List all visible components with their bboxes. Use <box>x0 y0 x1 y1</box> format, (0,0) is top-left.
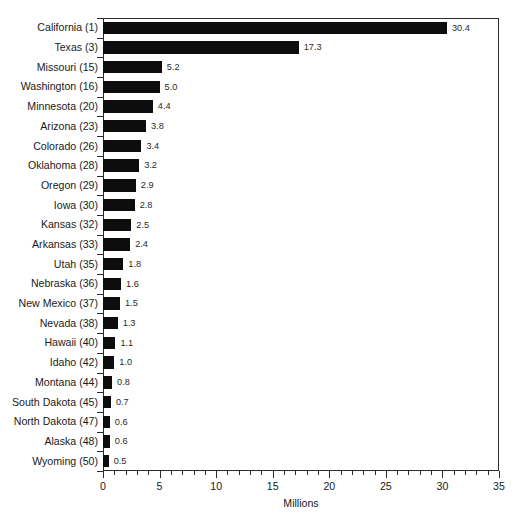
bar <box>103 317 118 329</box>
x-axis-minor-tick <box>318 471 319 475</box>
bar-row: 0.7 <box>103 392 499 412</box>
bar-row: 5.2 <box>103 57 499 77</box>
bar-row: 0.5 <box>103 451 499 471</box>
bar <box>103 258 123 270</box>
bar-value-label: 1.5 <box>125 295 138 311</box>
bar-row: 17.3 <box>103 38 499 58</box>
y-axis-label: California (1) <box>0 21 98 34</box>
y-axis-label: North Dakota (47) <box>0 415 98 428</box>
y-axis-label: Kansas (32) <box>0 218 98 231</box>
bar-value-label: 0.6 <box>115 433 128 449</box>
x-axis-minor-tick <box>454 471 455 475</box>
x-axis-minor-tick <box>227 471 228 475</box>
x-axis-minor-tick <box>363 471 364 475</box>
bar-value-label: 1.6 <box>126 276 139 292</box>
bar-row: 2.4 <box>103 235 499 255</box>
x-axis-tick-label: 15 <box>267 479 279 493</box>
x-axis-minor-tick <box>194 471 195 475</box>
bar-value-label: 1.3 <box>123 315 136 331</box>
x-axis-minor-tick <box>408 471 409 475</box>
bar-row: 2.8 <box>103 195 499 215</box>
bar <box>103 140 141 152</box>
bar-row: 5.0 <box>103 77 499 97</box>
bar-value-label: 0.8 <box>117 374 130 390</box>
y-axis-label: Montana (44) <box>0 376 98 389</box>
x-axis-tick-label: 35 <box>493 479 505 493</box>
bar-value-label: 2.9 <box>141 177 154 193</box>
x-axis-minor-tick <box>488 471 489 475</box>
y-axis-label: Hawaii (40) <box>0 336 98 349</box>
bar-row: 2.5 <box>103 215 499 235</box>
bar-row: 1.0 <box>103 353 499 373</box>
bar <box>103 81 160 93</box>
bar-row: 1.8 <box>103 254 499 274</box>
x-axis-minor-tick <box>171 471 172 475</box>
bar-row: 0.6 <box>103 432 499 452</box>
x-axis-major-tick <box>329 471 330 478</box>
x-axis-minor-tick <box>352 471 353 475</box>
bar <box>103 435 110 447</box>
x-axis-minor-tick <box>250 471 251 475</box>
y-axis-label: Wyoming (50) <box>0 455 98 468</box>
x-axis-major-tick <box>160 471 161 478</box>
y-axis-label: Oregon (29) <box>0 179 98 192</box>
x-axis-tick-label: 30 <box>437 479 449 493</box>
bar-row: 2.9 <box>103 176 499 196</box>
bar-value-label: 2.8 <box>140 197 153 213</box>
bar-value-label: 5.2 <box>167 59 180 75</box>
x-axis-tick-label: 5 <box>157 479 163 493</box>
x-axis-minor-tick <box>465 471 466 475</box>
x-axis-title: Millions <box>103 496 499 510</box>
bar-value-label: 0.7 <box>116 394 129 410</box>
bar <box>103 455 109 467</box>
bar-row: 3.4 <box>103 136 499 156</box>
y-axis-label: Iowa (30) <box>0 199 98 212</box>
x-axis-minor-tick <box>420 471 421 475</box>
bar-rows: 30.417.35.25.04.43.83.43.22.92.82.52.41.… <box>103 18 499 471</box>
y-axis-label: Washington (16) <box>0 80 98 93</box>
y-axis-label: Oklahoma (28) <box>0 159 98 172</box>
bar <box>103 179 136 191</box>
x-axis-major-tick <box>273 471 274 478</box>
x-axis-major-tick <box>103 471 104 478</box>
bar-value-label: 0.5 <box>114 453 127 469</box>
bar <box>103 41 299 53</box>
bar <box>103 61 162 73</box>
bar-value-label: 30.4 <box>452 20 470 36</box>
x-axis-major-tick <box>442 471 443 478</box>
x-axis-tick-labels: 05101520253035 <box>0 479 522 495</box>
x-axis-minor-tick <box>341 471 342 475</box>
bar-row: 0.8 <box>103 373 499 393</box>
y-axis-label: Minnesota (20) <box>0 100 98 113</box>
bar-value-label: 1.1 <box>120 335 133 351</box>
x-axis-tick-label: 10 <box>210 479 222 493</box>
bar-row: 3.2 <box>103 156 499 176</box>
x-axis-major-tick <box>216 471 217 478</box>
y-axis-label: Nebraska (36) <box>0 277 98 290</box>
bar-row: 4.4 <box>103 97 499 117</box>
bar <box>103 337 115 349</box>
bar-value-label: 0.6 <box>115 414 128 430</box>
bar-value-label: 2.4 <box>135 236 148 252</box>
bar-row: 1.3 <box>103 313 499 333</box>
y-axis-label: Arkansas (33) <box>0 238 98 251</box>
bar-row: 1.5 <box>103 294 499 314</box>
bar-value-label: 3.2 <box>144 157 157 173</box>
bar <box>103 219 131 231</box>
y-axis-label: Missouri (15) <box>0 61 98 74</box>
y-axis-label: Utah (35) <box>0 258 98 271</box>
bar <box>103 22 447 34</box>
x-axis-minor-tick <box>137 471 138 475</box>
y-axis-label: South Dakota (45) <box>0 396 98 409</box>
bar <box>103 416 110 428</box>
y-axis-label: Arizona (23) <box>0 120 98 133</box>
x-axis-minor-tick <box>126 471 127 475</box>
bar-row: 1.1 <box>103 333 499 353</box>
x-axis-minor-tick <box>114 471 115 475</box>
x-axis-minor-tick <box>148 471 149 475</box>
bar-row: 0.6 <box>103 412 499 432</box>
x-axis-major-tick <box>499 471 500 478</box>
bar <box>103 376 112 388</box>
y-axis-label: Nevada (38) <box>0 317 98 330</box>
x-axis-minor-tick <box>261 471 262 475</box>
